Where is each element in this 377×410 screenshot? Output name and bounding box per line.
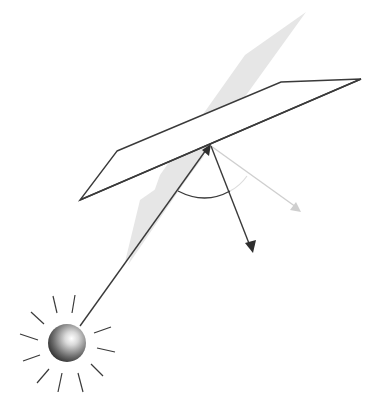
angle-arc	[178, 191, 230, 198]
reflection-diagram	[0, 0, 377, 410]
light-source-sphere	[48, 324, 86, 362]
faint-ray	[211, 146, 296, 207]
reflected-arrowhead-icon	[245, 240, 256, 253]
angle-arc-faint	[230, 176, 247, 191]
